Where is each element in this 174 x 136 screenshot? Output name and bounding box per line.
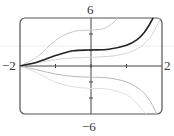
x-max-label: 2	[164, 59, 171, 72]
y-min-label: −6	[82, 120, 96, 133]
chart-canvas	[0, 0, 174, 136]
solution-curve	[20, 18, 160, 66]
axes	[20, 18, 162, 114]
solution-curve	[20, 66, 146, 114]
y-max-label: 6	[87, 3, 94, 16]
x-min-label: −2	[2, 59, 16, 72]
solution-curve	[20, 18, 153, 66]
solution-curve	[20, 66, 157, 114]
